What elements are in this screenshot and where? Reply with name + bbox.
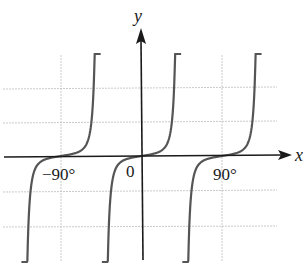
x-axis-label: x: [294, 145, 303, 165]
y-axis-label: y: [132, 6, 142, 26]
grid-lines: [3, 55, 277, 262]
y-axis: [136, 28, 146, 260]
tick-label-0: 0: [126, 162, 135, 181]
tick-label-neg90: −90°: [42, 165, 75, 184]
chart-canvas: y x −90° 0 90°: [0, 0, 303, 266]
tick-label-90: 90°: [213, 165, 237, 184]
